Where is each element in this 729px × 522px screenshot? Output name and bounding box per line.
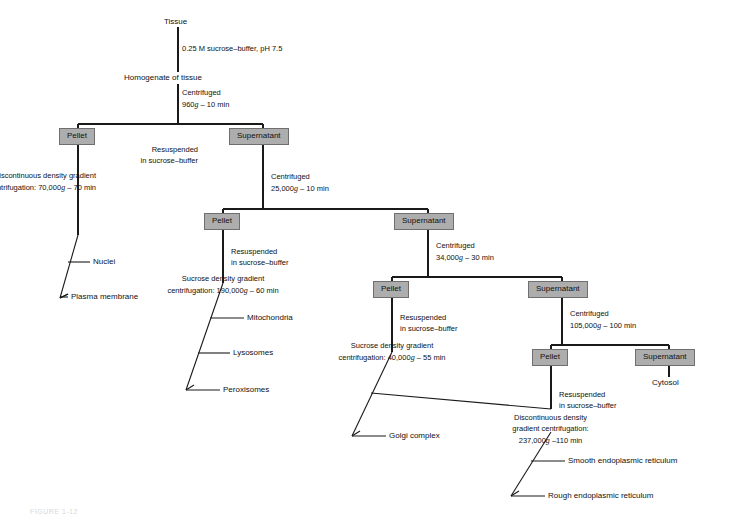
box-pellet-4[interactable]: Pellet: [532, 349, 568, 366]
annotation-spin-3: Centrifuged 34,000g – 30 min: [436, 241, 494, 264]
annotation-spin-4: Centrifuged 105,000g – 100 min: [570, 309, 636, 332]
annotation-resuspend-1: Resuspended in sucrose–buffer: [86, 145, 198, 167]
annotation-gradient-3: Sucrose density gradient centrifugation:…: [302, 341, 482, 364]
wire-fan4-foot: [511, 491, 519, 496]
annotation-spin-1: Centrifuged 960g – 10 min: [182, 88, 229, 111]
spin-2-label: Centrifuged: [271, 172, 329, 183]
product-smooth-er: Smooth endoplasmic reticulum: [568, 456, 677, 466]
wire-fan2-foot: [186, 385, 194, 390]
resuspend-4-line1: Resuspended: [559, 390, 616, 401]
cell-fractionation-diagram: Tissue 0.25 M sucrose–buffer, pH 7.5 Hom…: [0, 0, 729, 522]
annotation-resuspend-4: Resuspended in sucrose–buffer: [559, 390, 616, 412]
box-supernatant-1[interactable]: Supernatant: [229, 128, 289, 145]
spin-3-time: – 30 min: [463, 253, 494, 262]
spin-4-value: 105,000g – 100 min: [570, 320, 636, 332]
gradient-4-line3: 237,000g –110 min: [469, 435, 632, 447]
wire-fan3-diagonal: [352, 352, 392, 436]
spin-1-label: Centrifuged: [182, 88, 229, 99]
spin-1-value: 960g – 10 min: [182, 99, 229, 111]
product-cytosol: Cytosol: [652, 378, 679, 388]
gradient-4-line2: gradient centrifugation:: [469, 424, 632, 435]
box-pellet-2[interactable]: Pellet: [204, 213, 240, 230]
resuspend-3-line2: in sucrose–buffer: [400, 324, 457, 335]
wire-golgi-to-pellet4: [371, 393, 551, 409]
wire-fan2-diagonal: [186, 283, 223, 390]
box-supernatant-4[interactable]: Supernatant: [635, 349, 695, 366]
product-rough-er: Rough endoplasmic reticulum: [548, 491, 653, 501]
wire-fan1-foot2: [60, 294, 68, 298]
resuspend-2-line1: Resuspended: [231, 247, 288, 258]
spin-1-time: – 10 min: [199, 100, 230, 109]
resuspend-1-line2: in sucrose–buffer: [86, 156, 198, 167]
wire-fan1-diagonal: [60, 235, 78, 298]
gradient-4-line1: Discontinuous density: [469, 413, 632, 424]
product-lysosomes: Lysosomes: [233, 348, 273, 358]
box-pellet-1[interactable]: Pellet: [59, 128, 95, 145]
annotation-gradient-1: Discontinuous density gradient centrifug…: [0, 171, 96, 194]
gradient-1-post: – 70 min: [65, 183, 96, 192]
gradient-4-pre: 237,000: [519, 436, 546, 445]
spin-4-time: – 100 min: [601, 321, 636, 330]
box-supernatant-2[interactable]: Supernatant: [394, 213, 454, 230]
spin-3-force: 34,000: [436, 253, 459, 262]
gradient-1-line2: centrifugation: 70,000g – 70 min: [0, 182, 96, 194]
product-nuclei: Nuclei: [93, 257, 115, 267]
box-supernatant-3[interactable]: Supernatant: [528, 281, 588, 298]
gradient-4-post: –110 min: [550, 436, 582, 445]
node-homogenate: Homogenate of tissue: [124, 73, 202, 83]
spin-4-force: 105,000: [570, 321, 597, 330]
product-peroxisomes: Peroxisomes: [223, 385, 269, 395]
spin-3-label: Centrifuged: [436, 241, 494, 252]
box-pellet-3[interactable]: Pellet: [373, 281, 409, 298]
annotation-gradient-4: Discontinuous density gradient centrifug…: [469, 413, 632, 447]
wire-fan3-foot: [352, 431, 360, 436]
gradient-2-line2: centrifugation: 190,000g – 60 min: [133, 285, 313, 297]
annotation-resuspend-3: Resuspended in sucrose–buffer: [400, 313, 457, 335]
resuspend-2-line2: in sucrose–buffer: [231, 258, 288, 269]
product-mitochondria: Mitochondria: [247, 313, 293, 323]
wire-fan1-foot: [60, 294, 68, 298]
annotation-spin-2: Centrifuged 25,000g – 10 min: [271, 172, 329, 195]
annotation-gradient-2: Sucrose density gradient centrifugation:…: [133, 274, 313, 297]
gradient-2-post: – 60 min: [248, 286, 279, 295]
resuspend-1-line1: Resuspended: [86, 145, 198, 156]
gradient-3-line2: centrifugation: 40,000g – 55 min: [302, 352, 482, 364]
spin-2-force: 25,000: [271, 184, 294, 193]
spin-4-label: Centrifuged: [570, 309, 636, 320]
spin-2-value: 25,000g – 10 min: [271, 183, 329, 195]
spin-1-force: 960: [182, 100, 195, 109]
gradient-3-line1: Sucrose density gradient: [302, 341, 482, 352]
resuspend-4-line2: in sucrose–buffer: [559, 401, 616, 412]
figure-caption: FIGURE 1-12: [30, 508, 78, 515]
gradient-3-post: – 55 min: [415, 353, 446, 362]
resuspend-3-line1: Resuspended: [400, 313, 457, 324]
spin-2-time: – 10 min: [298, 184, 329, 193]
annotation-resuspend-2: Resuspended in sucrose–buffer: [231, 247, 288, 269]
product-plasma-membrane: Plasma membrane: [71, 292, 138, 302]
gradient-2-pre: centrifugation: 190,000: [167, 286, 243, 295]
gradient-2-line1: Sucrose density gradient: [133, 274, 313, 285]
gradient-1-line1: Discontinuous density gradient: [0, 171, 96, 182]
annotation-homogenization-buffer: 0.25 M sucrose–buffer, pH 7.5: [182, 44, 282, 55]
node-tissue: Tissue: [164, 17, 187, 27]
product-golgi-complex: Golgi complex: [389, 431, 440, 441]
spin-3-value: 34,000g – 30 min: [436, 252, 494, 264]
gradient-1-pre: centrifugation: 70,000: [0, 183, 61, 192]
gradient-3-pre: centrifugation: 40,000: [339, 353, 411, 362]
